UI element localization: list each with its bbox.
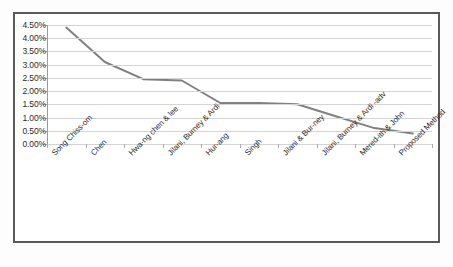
x-axis-tick	[124, 144, 125, 148]
y-axis-line	[47, 25, 48, 145]
y-axis-tick-label: 1.00%	[13, 114, 46, 123]
gridline	[47, 118, 432, 119]
gridline	[47, 91, 432, 92]
y-axis-tick-label: 4.00%	[13, 34, 46, 43]
x-axis-tick	[201, 144, 202, 148]
y-axis-tick-label: 1.50%	[13, 100, 46, 109]
y-axis-tick-label: 2.50%	[13, 74, 46, 83]
x-axis-tick	[355, 144, 356, 148]
gridline	[47, 25, 432, 26]
x-axis-tick	[163, 144, 164, 148]
x-axis-tick	[47, 144, 48, 148]
gridline	[47, 38, 432, 39]
data-series-line	[47, 25, 432, 144]
x-axis-tick	[278, 144, 279, 148]
y-axis-tick-labels: 4.50%4.00%3.50%3.00%2.50%2.00%1.50%1.00%…	[13, 18, 46, 151]
gridline	[47, 78, 432, 79]
y-axis-tick-label: 3.00%	[13, 61, 46, 70]
y-axis-tick-label: 2.00%	[13, 87, 46, 96]
chart-screenshot: 4.50%4.00%3.50%3.00%2.50%2.00%1.50%1.00%…	[0, 0, 453, 267]
y-axis-tick-label: 0.50%	[13, 127, 46, 136]
gridline	[47, 65, 432, 66]
x-axis-tick	[432, 144, 433, 148]
y-axis-tick-label: 4.50%	[13, 21, 46, 30]
plot-area	[47, 25, 432, 144]
gridline	[47, 131, 432, 132]
y-axis-tick-label: 0.00%	[13, 140, 46, 149]
x-axis-tick	[240, 144, 241, 148]
x-axis-tick	[86, 144, 87, 148]
x-axis-tick	[394, 144, 395, 148]
x-axis-tick	[317, 144, 318, 148]
gridline	[47, 51, 432, 52]
y-axis-tick-label: 3.50%	[13, 47, 46, 56]
